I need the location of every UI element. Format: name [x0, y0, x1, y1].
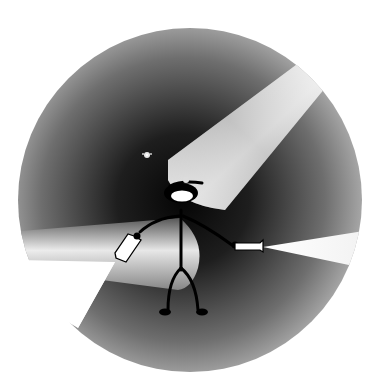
illustration: [0, 0, 382, 373]
headlamp-icon: [171, 191, 193, 202]
